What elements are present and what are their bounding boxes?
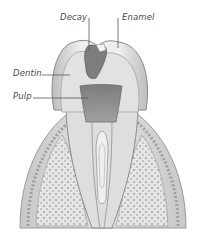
- label-enamel: Enamel: [122, 12, 154, 22]
- tooth-diagram: Decay Enamel Dentin Pulp: [0, 0, 204, 233]
- tooth-crown: [52, 40, 148, 122]
- label-pulp: Pulp: [13, 91, 32, 101]
- tooth-cross-section-illustration: [0, 0, 204, 233]
- label-dentin: Dentin: [13, 68, 42, 78]
- label-decay: Decay: [60, 12, 87, 22]
- pulp: [80, 85, 122, 123]
